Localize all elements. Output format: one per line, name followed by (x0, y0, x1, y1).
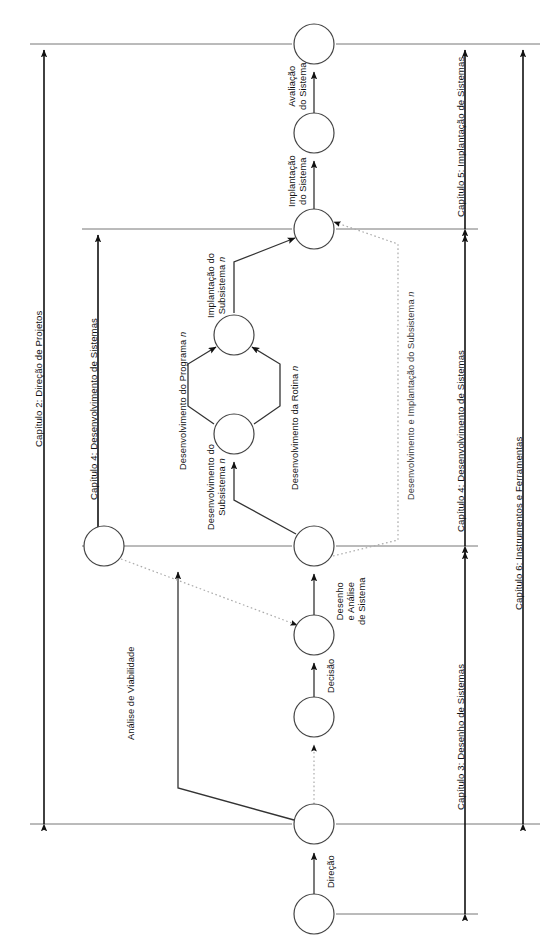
diagram-canvas: Capítulo 2: Direção de Projetos Capítulo… (0, 0, 555, 951)
edge-label-desenho-analise: Desenho e Análise de Sistema (335, 577, 368, 625)
chapter-label-cap3: Capítulo 3: Desenho de Sistemas (455, 664, 466, 810)
edge-label-analise-viabilidade: Análise de Viabilidade (126, 646, 137, 740)
edge-label-desenv-impl-subsistema: Desenvolvimento e Implantação do Subsist… (406, 291, 417, 500)
chapter-label-cap6: Capítulo 6: Instrumentos e Ferramentas (513, 437, 524, 610)
edge-direcao-to-viabilidade (178, 572, 294, 820)
edge-label-desenv-subsistema-italic: n (217, 458, 227, 463)
edge-label-desenho-analise-line3: de Sistema (357, 577, 367, 625)
edge-label-desenv-rotina-italic: n (290, 366, 300, 371)
diagram-svg (0, 0, 555, 951)
node-avaliacao-fim (294, 24, 334, 64)
edge-label-direcao: Direção (326, 855, 337, 888)
edge-label-implantacao-sistema-line1: Implantação (287, 155, 297, 207)
node-direcao-inicio (294, 894, 334, 934)
edge-label-desenv-impl-subsistema-italic: n (406, 291, 416, 296)
edge-label-implantacao-subsistema-line1: Implantação do (206, 253, 216, 318)
edge-label-avaliacao-line1: Avaliação (287, 66, 297, 107)
edge-label-avaliacao-line2: do Sistema (298, 62, 308, 110)
edge-label-desenv-impl-subsistema-text: Desenvolvimento e Implantação do Subsist… (406, 299, 416, 500)
dotted-edges (121, 222, 398, 804)
edge-label-desenv-programa-text: Desenvolvimento do Programa (178, 340, 188, 470)
node-decisao (294, 615, 334, 655)
edge-label-desenv-subsistema: Desenvolvimento do Subsistema n (206, 444, 228, 530)
edge-label-implantacao-sistema-line2: do Sistema (298, 157, 308, 205)
chapter-label-cap2: Capítulo 2: Direção de Projetos (33, 311, 44, 447)
edge-desenv-programa (188, 347, 216, 424)
node-viabilidade-inicio (84, 526, 124, 566)
chapter-label-cap5: Capítulo 5: Implantação de Sistemas (455, 57, 466, 217)
edge-label-desenv-rotina: Desenvolvimento da Rotina n (290, 366, 301, 490)
chapter-scale-arrows (44, 50, 523, 914)
edge-label-desenho-analise-line2: e Análise (346, 582, 356, 621)
edge-label-decisao: Decisão (326, 659, 337, 693)
node-programa-rotina-join (214, 315, 254, 355)
edge-label-implantacao-subsistema-line2: Subsistema (217, 265, 227, 315)
edge-label-implantacao-subsistema: Implantação do Subsistema n (206, 253, 228, 318)
dotted-desenv-impl-subsistema (333, 222, 398, 556)
node-viabilidade-fim (294, 697, 334, 737)
dotted-viabilidade-to-decisao (121, 559, 297, 625)
edge-label-desenho-analise-line1: Desenho (335, 582, 345, 620)
edge-label-desenv-programa-italic: n (178, 332, 188, 337)
edge-label-implantacao-sistema: Implantação do Sistema (287, 155, 309, 207)
chapter-label-cap4-right: Capítulo 4: Desenvolvimento de Sistemas (455, 350, 466, 532)
edge-label-desenv-subsistema-line2: Subsistema (217, 466, 227, 516)
edge-label-desenv-programa: Desenvolvimento do Programa n (178, 332, 189, 470)
edge-label-avaliacao: Avaliação do Sistema (287, 62, 309, 110)
chapter-label-cap4-left: Capítulo 4: Desenvolvimento de Sistemas (88, 318, 99, 500)
edge-label-implantacao-subsistema-italic: n (217, 257, 227, 262)
node-sistema-desenhado (294, 526, 334, 566)
node-direcao-fim (294, 804, 334, 844)
edge-label-desenv-rotina-text: Desenvolvimento da Rotina (290, 374, 300, 490)
node-subsistema-hub (294, 209, 334, 249)
edge-desenv-subsistema (234, 462, 296, 534)
edge-implantacao-subsistema (234, 238, 295, 313)
edge-desenv-rotina (252, 347, 280, 424)
node-sistema-implantado (294, 113, 334, 153)
edge-label-desenv-subsistema-line1: Desenvolvimento do (206, 444, 216, 530)
